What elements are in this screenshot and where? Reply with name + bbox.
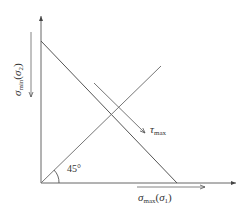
y-axis-paren-subscript: 2 bbox=[17, 67, 25, 71]
x-axis-paren-subscript: 1 bbox=[165, 197, 169, 205]
x-axis-subscript: max bbox=[143, 197, 155, 205]
y-axis-paren-symbol: σ bbox=[11, 71, 23, 76]
x-axis-label: σmax(σ1) bbox=[138, 192, 172, 205]
stress-diagram bbox=[0, 0, 248, 215]
descending-line bbox=[41, 41, 177, 183]
angle-label: 45° bbox=[67, 164, 81, 174]
y-axis-label: σmin(σ2) bbox=[12, 63, 25, 96]
y-axis-symbol: σ bbox=[11, 91, 23, 96]
tau-max-label: τmax bbox=[150, 124, 166, 137]
tau-max-arrow bbox=[94, 83, 145, 133]
diagonal-45-line bbox=[41, 66, 161, 183]
angle-arc bbox=[54, 170, 59, 183]
tau-subscript: max bbox=[154, 129, 166, 137]
y-axis-subscript: min bbox=[17, 80, 25, 91]
